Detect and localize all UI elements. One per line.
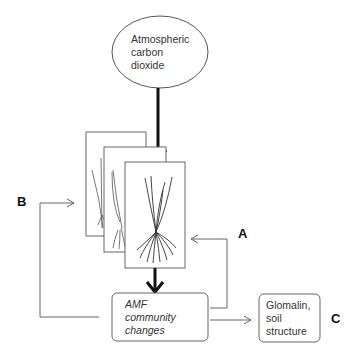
label-a: A <box>238 226 247 241</box>
co2-line-1: Atmospheric <box>131 33 189 46</box>
plant-card-front <box>125 162 185 268</box>
label-b: B <box>17 194 26 209</box>
thick-arrow-plants-to-amf <box>147 268 163 292</box>
glomalin-node-label: Glomalin, soil structure <box>266 299 310 338</box>
label-c: C <box>331 311 340 326</box>
glomalin-line-1: Glomalin, <box>266 299 310 312</box>
co2-line-3: dioxide <box>131 59 189 72</box>
amf-line-1: AMF <box>125 298 176 311</box>
co2-node-label: Atmospheric carbon dioxide <box>131 33 189 72</box>
glomalin-line-2: soil <box>266 312 310 325</box>
amf-line-2: community <box>125 311 176 324</box>
co2-line-2: carbon <box>131 46 189 59</box>
amf-line-3: changes <box>125 324 176 337</box>
amf-node-label: AMF community changes <box>125 298 176 337</box>
glomalin-line-3: structure <box>266 325 310 338</box>
